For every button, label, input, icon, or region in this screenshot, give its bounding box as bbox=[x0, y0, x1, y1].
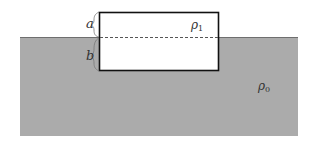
label-b: b bbox=[86, 49, 94, 62]
label-b-text: b bbox=[86, 48, 94, 63]
label-rho1: ρ1 bbox=[191, 19, 203, 33]
rho1-subscript: 1 bbox=[198, 24, 203, 33]
rho1-symbol: ρ bbox=[191, 18, 198, 32]
diagram-svg bbox=[0, 0, 313, 144]
diagram-canvas: a b ρ1 ρ0 bbox=[0, 0, 313, 144]
label-rho0: ρ0 bbox=[258, 80, 270, 94]
label-a-text: a bbox=[86, 16, 94, 31]
rho0-subscript: 0 bbox=[265, 85, 270, 94]
label-a: a bbox=[86, 17, 94, 30]
rho0-symbol: ρ bbox=[258, 79, 265, 93]
